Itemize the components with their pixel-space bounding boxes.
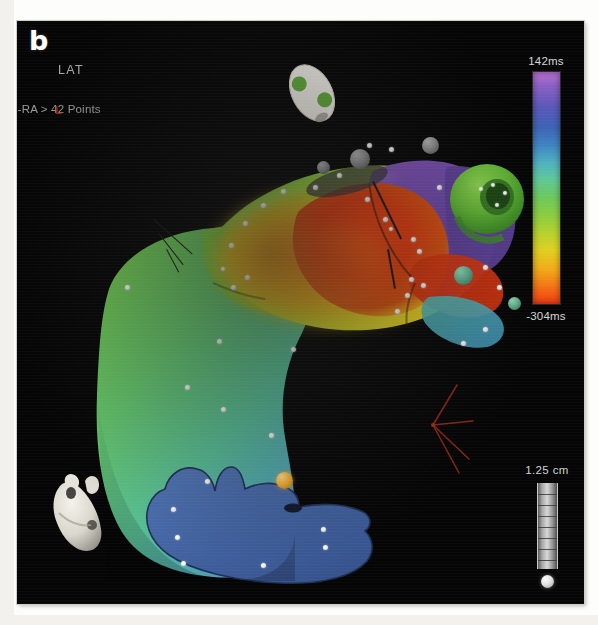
- map-point[interactable]: [269, 433, 274, 438]
- scale-tick: [538, 516, 557, 517]
- mapping-viewport[interactable]: L b LAT 1-RA > 42 Points 142ms: [17, 21, 584, 604]
- map-point[interactable]: [417, 249, 422, 254]
- scale-tick: [538, 560, 557, 561]
- mesh-reference-ellipsoid: [280, 57, 343, 129]
- map-point[interactable]: [181, 561, 186, 566]
- map-point[interactable]: [411, 237, 416, 242]
- anatomic-marker-sphere-2[interactable]: [422, 137, 439, 154]
- mesh-notch: [284, 504, 302, 513]
- mesh-blend-orange: [243, 225, 391, 313]
- map-point[interactable]: [383, 217, 388, 222]
- anatomic-marker-sphere-3[interactable]: [317, 161, 330, 174]
- map-point[interactable]: [229, 243, 234, 248]
- scale-tick: [538, 494, 557, 495]
- map-point[interactable]: [405, 293, 410, 298]
- map-point[interactable]: [479, 187, 483, 191]
- map-point[interactable]: [217, 339, 222, 344]
- scale-knob[interactable]: [541, 575, 554, 588]
- map-point[interactable]: [261, 203, 266, 208]
- map-point[interactable]: [261, 563, 266, 568]
- map-point[interactable]: [205, 479, 210, 484]
- catheter-tip-marker[interactable]: [276, 472, 293, 489]
- scale-tick: [538, 505, 557, 506]
- map-point[interactable]: [175, 535, 180, 540]
- figure-page: L b LAT 1-RA > 42 Points 142ms: [0, 0, 598, 625]
- map-point[interactable]: [421, 283, 426, 288]
- lat-colorbar-group[interactable]: 142ms -304ms: [515, 55, 577, 322]
- scale-tick: [538, 527, 557, 528]
- map-point[interactable]: [185, 385, 190, 390]
- scale-tick: [538, 538, 557, 539]
- map-point[interactable]: [243, 221, 248, 226]
- map-point[interactable]: [221, 407, 226, 412]
- map-point[interactable]: [497, 285, 502, 290]
- map-point[interactable]: [337, 173, 342, 178]
- map-point[interactable]: [389, 147, 394, 152]
- ablation-marker-sphere-1[interactable]: [454, 266, 473, 285]
- lat-colorbar[interactable]: [532, 71, 561, 305]
- distance-scale-label: 1.25 cm: [517, 464, 577, 476]
- map-point[interactable]: [461, 341, 466, 346]
- anatomic-marker-sphere-1[interactable]: [350, 149, 370, 169]
- orientation-axis-label: L: [55, 104, 62, 116]
- scale-tick: [538, 549, 557, 550]
- distance-scale-group[interactable]: 1.25 cm: [517, 464, 577, 588]
- map-point[interactable]: [389, 227, 393, 231]
- colorbar-min-label: -304ms: [515, 310, 577, 322]
- map-point[interactable]: [231, 285, 236, 290]
- map-point[interactable]: [503, 191, 507, 195]
- map-point[interactable]: [221, 267, 225, 271]
- map-point[interactable]: [321, 527, 326, 532]
- colorbar-max-label: 142ms: [515, 55, 577, 67]
- map-point[interactable]: [495, 203, 499, 207]
- map-title: LAT: [58, 63, 84, 77]
- map-point[interactable]: [323, 545, 328, 550]
- map-point[interactable]: [437, 185, 442, 190]
- map-point[interactable]: [409, 277, 414, 282]
- map-point[interactable]: [483, 265, 488, 270]
- map-point[interactable]: [365, 197, 370, 202]
- map-point[interactable]: [313, 185, 318, 190]
- map-point[interactable]: [245, 275, 250, 280]
- map-point[interactable]: [491, 183, 495, 187]
- map-point[interactable]: [291, 347, 296, 352]
- heart-orientation-model[interactable]: [35, 469, 115, 561]
- map-point[interactable]: [125, 285, 130, 290]
- map-point[interactable]: [483, 327, 488, 332]
- panel-letter: b: [29, 25, 48, 56]
- map-point[interactable]: [171, 507, 176, 512]
- distance-scale-gauge[interactable]: [537, 483, 558, 569]
- map-point[interactable]: [367, 143, 372, 148]
- map-point[interactable]: [281, 189, 286, 194]
- map-point[interactable]: [395, 309, 400, 314]
